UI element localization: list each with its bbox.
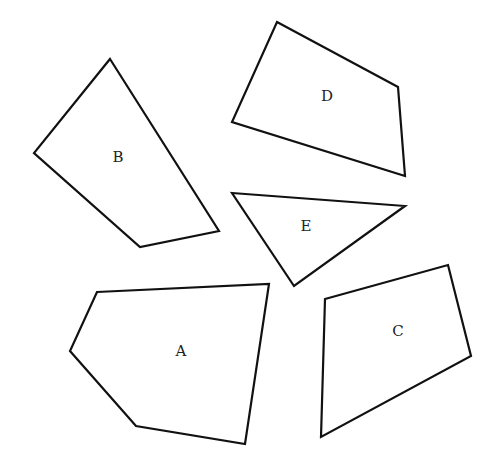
label-e: E <box>301 217 312 235</box>
label-b: B <box>112 148 123 166</box>
label-c: C <box>392 322 403 340</box>
diagram-svg: A B C D E <box>0 0 496 466</box>
shape-b: B <box>34 59 219 247</box>
polygon-a <box>70 284 269 444</box>
label-d: D <box>321 87 333 105</box>
shape-a: A <box>70 284 269 444</box>
polygon-d <box>232 22 405 176</box>
shape-d: D <box>232 22 405 176</box>
shapes-diagram: A B C D E <box>0 0 496 466</box>
label-a: A <box>175 342 187 360</box>
polygon-b <box>34 59 219 247</box>
shape-e: E <box>232 193 405 286</box>
polygon-e <box>232 193 405 286</box>
polygon-c <box>321 265 471 437</box>
shape-c: C <box>321 265 471 437</box>
